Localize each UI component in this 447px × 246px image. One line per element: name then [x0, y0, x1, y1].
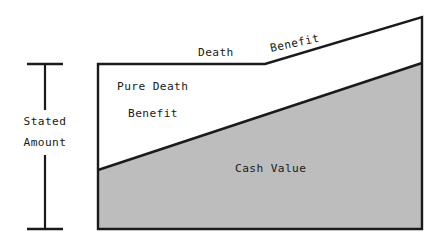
stated-amount-label-line1: Stated [24, 115, 67, 128]
stated-amount-label-line2: Amount [24, 136, 67, 149]
diagram-canvas: Stated Amount Death Benefit Pure Death B… [0, 0, 447, 246]
insurance-diagram-figure: Stated Amount Death Benefit Pure Death B… [0, 0, 447, 246]
cash-value-label: Cash Value [235, 162, 306, 175]
pure-death-benefit-label-line2: Benefit [128, 107, 178, 120]
death-label: Death [198, 46, 234, 59]
pure-death-benefit-label-line1: Pure Death [117, 80, 188, 93]
